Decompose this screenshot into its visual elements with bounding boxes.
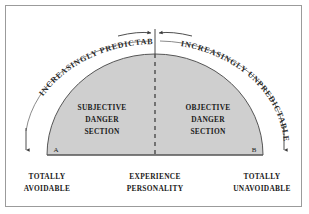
dome-marker-b: B: [252, 146, 257, 154]
subjective-section-line1: SUBJECTIVE: [78, 103, 127, 112]
objective-section-line1: OBJECTIVE: [186, 103, 231, 112]
subjective-section-line3: SECTION: [84, 127, 119, 136]
diagram-canvas: INCREASINGLY PREDICTABLE INCREASINGLY UN…: [0, 0, 309, 214]
dome-marker-a: A: [53, 146, 58, 154]
top-left-converging-arrow: [118, 32, 151, 36]
objective-section-line2: DANGER: [191, 115, 225, 124]
objective-section-line3: SECTION: [190, 127, 225, 136]
endpoint-center-line2: PERSONALITY: [127, 184, 184, 193]
endpoint-right-line2: UNAVOIDABLE: [233, 184, 291, 193]
endpoint-left-line1: TOTALLY: [29, 172, 66, 181]
endpoint-center-line1: EXPERIENCE: [129, 172, 180, 181]
subjective-section-line2: DANGER: [85, 115, 119, 124]
top-right-converging-arrow: [159, 32, 192, 36]
endpoint-right-line1: TOTALLY: [244, 172, 281, 181]
endpoint-left-line2: AVOIDABLE: [24, 184, 70, 193]
diagram-root: INCREASINGLY PREDICTABLE INCREASINGLY UN…: [0, 0, 309, 214]
